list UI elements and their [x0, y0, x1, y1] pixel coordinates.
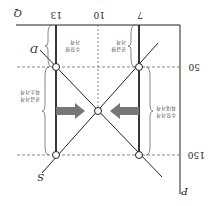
brace-bottom-right-text-2: 가격 — [70, 39, 80, 46]
point-13-150 — [53, 152, 60, 159]
price-tick-150: 150 — [188, 150, 205, 160]
point-7-150 — [136, 152, 143, 159]
supply-demand-diagram: P Q 150 50 7 10 13 D S 수요가격 최대가격 공급가격 최소… — [0, 0, 210, 206]
brace-right — [42, 67, 49, 155]
arrow-right-icon — [110, 103, 139, 119]
brace-bottom-left-text-2: 가격 — [116, 39, 126, 46]
demand-label: D — [30, 44, 39, 55]
q-axis-label: Q — [14, 8, 22, 19]
p-axis-label: P — [181, 186, 189, 197]
supply-label: S — [37, 172, 44, 183]
brace-right-text-1: 공급가격 — [20, 96, 40, 103]
price-tick-50: 50 — [188, 62, 200, 72]
qty-tick-13: 13 — [50, 10, 62, 20]
point-7-50 — [136, 64, 143, 71]
brace-left — [146, 67, 153, 155]
brace-right-text-2: 최소가격 — [20, 89, 40, 96]
point-13-50 — [53, 64, 60, 71]
qty-tick-10: 10 — [93, 10, 105, 20]
brace-left-text-2: 최대가격 — [156, 105, 176, 112]
brace-bottom-left — [128, 25, 135, 67]
diagram-svg: P Q 150 50 7 10 13 D S 수요가격 최대가격 공급가격 최소… — [0, 0, 210, 206]
equilibrium-point — [95, 108, 102, 115]
brace-bottom-right-text-1: 수요량 — [65, 46, 80, 53]
arrow-left-icon — [56, 103, 85, 119]
qty-tick-7: 7 — [137, 10, 143, 20]
brace-left-text-1: 수요가격 — [156, 112, 176, 119]
brace-bottom-left-text-1: 공급량 — [111, 47, 126, 53]
